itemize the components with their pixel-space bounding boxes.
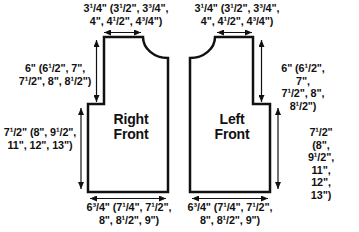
bottom-width-label-left: 6³/4" (7¹/4", 7¹/2", 8", 8¹/2", 9")	[188, 201, 273, 226]
shoulder-width-label-left: 3¹/4" (3¹/2", 3³/4", 4", 4¹/2", 4³/4")	[195, 2, 280, 27]
armhole-depth-label-right: 6" (6¹/2", 7", 7¹/2", 8", 8¹/2")	[19, 62, 91, 87]
bottom-width-label-right: 6³/4" (7¹/4", 7¹/2", 8", 8¹/2", 9")	[87, 201, 172, 226]
right-front-name: Right Front	[114, 112, 149, 142]
left-front-name: Left Front	[215, 112, 250, 142]
body-length-label-right: 7¹/2" (8", 9¹/2", 11", 12", 13")	[4, 126, 76, 151]
shoulder-width-label-right: 3¹/4" (3¹/2", 3³/4", 4", 4¹/2", 4³/4")	[84, 2, 169, 27]
pattern-schematic: 3¹/4" (3¹/2", 3³/4", 4", 4¹/2", 4³/4") 3…	[0, 0, 359, 232]
armhole-depth-label-left: 6" (6¹/2", 7", 7¹/2", 8", 8¹/2")	[275, 62, 331, 112]
body-length-label-left: 7¹/2" (8", 9¹/2", 11", 12", 13")	[302, 126, 340, 201]
